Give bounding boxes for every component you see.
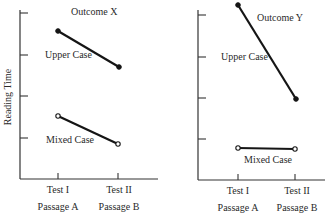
x-tick-label: Test I	[47, 184, 69, 195]
x-tick-label: Test II	[106, 184, 132, 195]
x-ticks	[58, 173, 118, 179]
data-point	[236, 3, 241, 8]
y-ticks	[20, 13, 28, 138]
x-tick-sublabel: Passage B	[277, 202, 318, 213]
x-tick-sublabel: Passage B	[99, 201, 140, 212]
data-point	[294, 97, 299, 102]
panel-outcome-x: Reading Time Outcome X Upper Case	[2, 6, 158, 212]
x-tick-sublabel: Passage A	[218, 202, 260, 213]
data-point	[56, 29, 61, 34]
panel-title: Outcome Y	[257, 12, 303, 23]
series-upper-case: Upper Case	[45, 29, 121, 70]
panel-outcome-y: Outcome Y Upper Case Mixed Case Test I T…	[198, 3, 325, 213]
data-point	[236, 146, 240, 150]
series-label: Upper Case	[45, 49, 92, 60]
series-label: Mixed Case	[244, 154, 293, 165]
panel-title: Outcome X	[71, 6, 118, 17]
figure-reading-time-interaction: Reading Time Outcome X Upper Case	[0, 0, 330, 219]
x-ticks	[238, 174, 295, 180]
data-point	[117, 65, 122, 70]
series-label: Upper Case	[221, 51, 268, 62]
y-axis-label: Reading Time	[2, 68, 13, 125]
x-tick-label: Test II	[284, 185, 310, 196]
data-point	[56, 114, 60, 118]
data-point	[116, 142, 120, 146]
x-tick-label: Test I	[227, 185, 249, 196]
x-tick-sublabel: Passage A	[38, 201, 80, 212]
data-point	[293, 147, 297, 151]
series-mixed-case: Mixed Case	[236, 146, 297, 165]
y-ticks	[198, 15, 206, 139]
series-mixed-case: Mixed Case	[46, 114, 120, 146]
series-label: Mixed Case	[46, 134, 95, 145]
